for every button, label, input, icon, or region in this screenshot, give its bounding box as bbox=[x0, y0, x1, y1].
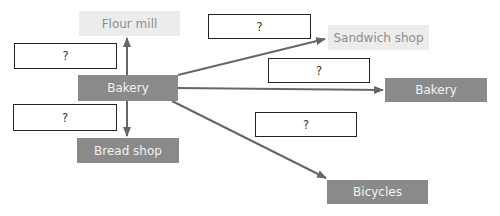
blank-box-left-top[interactable]: ? bbox=[14, 43, 117, 69]
node-bread-shop: Bread shop bbox=[77, 138, 179, 163]
node-sandwich-shop: Sandwich shop bbox=[328, 25, 429, 50]
blank-box-middle[interactable]: ? bbox=[268, 58, 370, 83]
blank-box-bottom-right[interactable]: ? bbox=[255, 112, 357, 137]
blank-box-top[interactable]: ? bbox=[208, 14, 311, 39]
node-bakery-center: Bakery bbox=[78, 75, 178, 101]
blank-box-left-bottom[interactable]: ? bbox=[13, 104, 117, 131]
arrow-to-bakery-right bbox=[178, 88, 383, 90]
node-flour-mill: Flour mill bbox=[79, 11, 180, 36]
node-bicycles: Bicycles bbox=[327, 180, 428, 204]
node-bakery-right: Bakery bbox=[385, 78, 487, 102]
